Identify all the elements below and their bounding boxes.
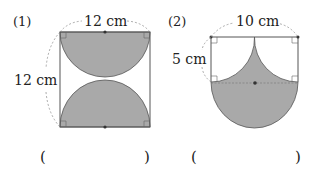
figure-2-top-label: 10 cm	[236, 13, 279, 29]
answer-2-close-paren: )	[295, 148, 301, 166]
figure-2-center-dot	[253, 81, 257, 85]
figure-2-top-dimension-arc	[211, 23, 234, 37]
figure-2: (2) 10 cm 5 cm	[168, 13, 300, 128]
figure-1-top-center-dot	[103, 30, 106, 33]
figure-1-top-semicircle	[60, 32, 150, 77]
diagram-canvas: (1) 12 cm 12 cm (2) 10 cm 5 cm (	[0, 0, 315, 176]
answer-1-close-paren: )	[144, 148, 150, 166]
figure-2-side-dimension-arc	[202, 37, 211, 50]
figure-1-top-label: 12 cm	[84, 13, 127, 29]
figure-2-side-label: 5 cm	[172, 51, 206, 67]
figure-1-bottom-semicircle	[60, 80, 150, 127]
answer-1-open-paren: (	[40, 148, 46, 166]
figure-1-side-label: 12 cm	[14, 72, 57, 88]
figure-1-side-dimension-arc	[46, 32, 60, 68]
figure-1-bottom-center-dot	[103, 125, 106, 128]
answer-blanks: ( ) ( )	[40, 148, 301, 166]
answer-2-open-paren: (	[191, 148, 197, 166]
figure-1: (1) 12 cm 12 cm	[13, 13, 150, 129]
figure-2-number: (2)	[168, 14, 186, 29]
figure-1-top-dimension-arc	[60, 21, 82, 32]
figure-1-number: (1)	[13, 14, 31, 29]
